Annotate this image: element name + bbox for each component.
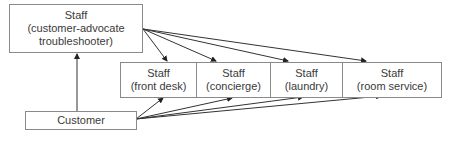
node-subtitle: (room service) [357, 80, 427, 93]
node-subtitle: troubleshooter) [39, 35, 113, 48]
node-subtitle: (concierge) [206, 80, 261, 93]
node-customer: Customer [25, 111, 137, 130]
node-staff-laundry: Staff (laundry) [270, 62, 343, 98]
node-subtitle: (laundry) [285, 80, 328, 93]
node-title: Staff [381, 67, 403, 80]
node-subtitle: (customer-advocate [27, 22, 124, 35]
node-title: Staff [65, 9, 87, 22]
node-title: Staff [147, 67, 169, 80]
node-subtitle: (front desk) [131, 80, 187, 93]
node-title: Staff [295, 67, 317, 80]
node-staff-concierge: Staff (concierge) [196, 62, 271, 98]
node-title: Customer [57, 114, 105, 127]
node-staff-front-desk: Staff (front desk) [120, 62, 197, 98]
node-title: Staff [222, 67, 244, 80]
node-customer-advocate-troubleshooter: Staff (customer-advocate troubleshooter) [9, 4, 143, 53]
node-staff-room-service: Staff (room service) [342, 62, 442, 98]
